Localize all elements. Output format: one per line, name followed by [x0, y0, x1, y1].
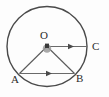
vertex-label-a: A — [11, 74, 19, 85]
center-dot-icon — [45, 44, 49, 48]
arrowhead-ab-icon — [46, 71, 52, 76]
segment-oa — [20, 47, 48, 74]
vertex-label-b: B — [76, 73, 83, 84]
vertex-label-o: O — [40, 30, 48, 41]
segment-ob — [47, 47, 75, 74]
arrowhead-oc-icon — [68, 44, 74, 49]
vertex-label-c: C — [92, 41, 99, 52]
geometry-figure: O C A B — [0, 0, 109, 97]
